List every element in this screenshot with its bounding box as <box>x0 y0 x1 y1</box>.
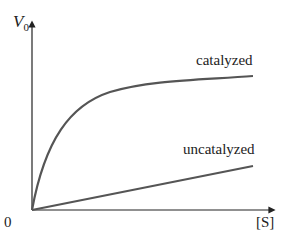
catalyzed-label: catalyzed <box>196 52 253 69</box>
x-axis-label: [S] <box>256 214 274 231</box>
uncatalyzed-line <box>32 166 253 210</box>
uncatalyzed-label: uncatalyzed <box>183 141 255 158</box>
origin-label: 0 <box>4 214 12 231</box>
plot-area <box>0 0 295 245</box>
y-axis-label: V0 <box>13 12 29 33</box>
